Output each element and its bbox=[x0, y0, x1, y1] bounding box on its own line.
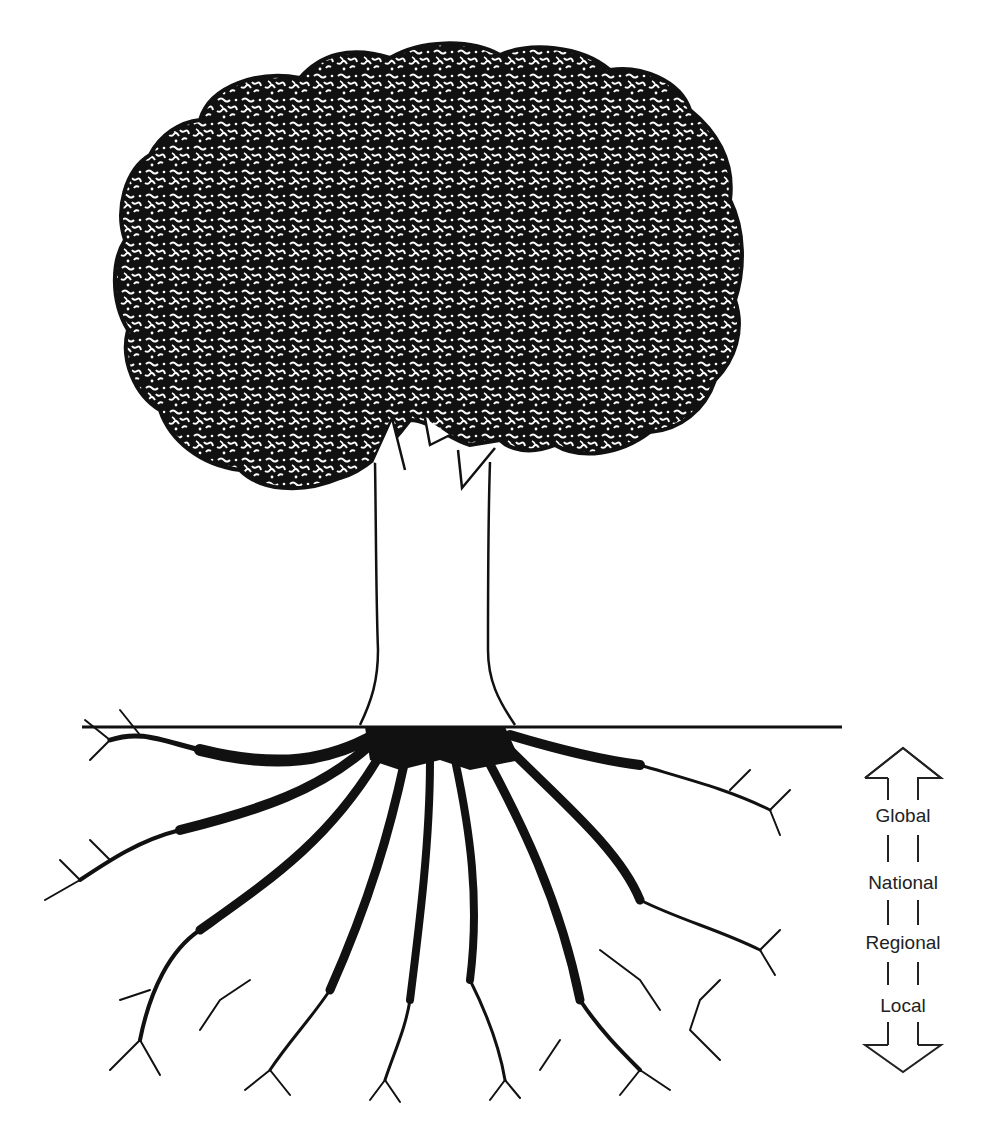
double-headed-vertical-arrow-icon bbox=[865, 748, 941, 1072]
scale-label-local: Local bbox=[843, 996, 963, 1015]
tree-trunk bbox=[360, 418, 515, 725]
scale-label-national: National bbox=[843, 873, 963, 892]
tree-roots bbox=[45, 710, 790, 1102]
scale-label-global: Global bbox=[843, 806, 963, 825]
scale-label-regional: Regional bbox=[843, 933, 963, 952]
tree-roots-diagram: Global National Regional Local bbox=[0, 0, 985, 1127]
